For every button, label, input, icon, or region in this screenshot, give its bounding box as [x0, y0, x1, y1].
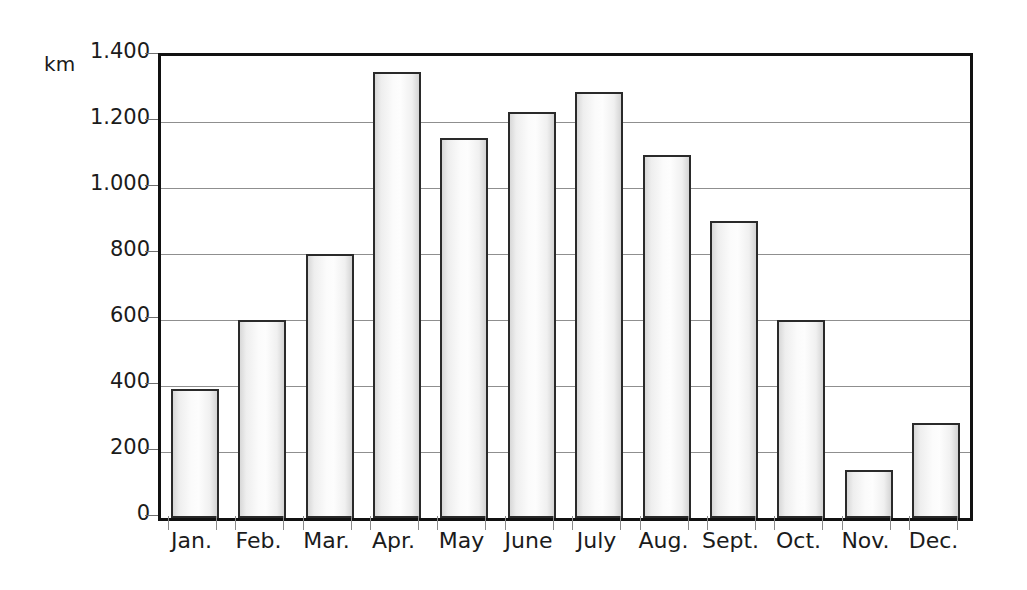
x-axis-label: Sept. — [697, 528, 764, 553]
gridline — [161, 122, 970, 123]
y-axis-tick-label: 0 — [0, 501, 164, 525]
bar[interactable] — [575, 92, 623, 518]
y-axis-tick-mark — [145, 383, 158, 384]
y-axis-tick-label: 600 — [0, 303, 164, 327]
x-axis-label: Jan. — [158, 528, 225, 553]
bar[interactable] — [845, 470, 893, 518]
x-axis-label: Mar. — [293, 528, 360, 553]
bar[interactable] — [306, 254, 354, 518]
y-axis-tick-label: 1.000 — [0, 171, 164, 195]
bar[interactable] — [373, 72, 421, 518]
y-axis-tick-mark — [145, 515, 158, 516]
x-axis-label: Aug. — [630, 528, 697, 553]
x-axis-label: May — [428, 528, 495, 553]
bar[interactable] — [238, 320, 286, 518]
y-axis-tick-label: 800 — [0, 237, 164, 261]
bar[interactable] — [710, 221, 758, 518]
y-axis-tick-mark — [145, 185, 158, 186]
x-axis-label: Apr. — [360, 528, 427, 553]
x-axis-label: Feb. — [225, 528, 292, 553]
y-axis-tick-mark — [145, 317, 158, 318]
y-axis-tick-mark — [145, 119, 158, 120]
plot-area — [158, 53, 973, 521]
gridline — [161, 188, 970, 189]
y-axis-tick-mark — [145, 251, 158, 252]
bar[interactable] — [912, 423, 960, 518]
y-axis-tick-label: 1.200 — [0, 105, 164, 129]
plot-inner — [161, 56, 970, 518]
bar[interactable] — [440, 138, 488, 518]
gridline — [161, 254, 970, 255]
y-axis-tick-label: 1.400 — [0, 39, 164, 63]
bar[interactable] — [508, 112, 556, 518]
bar[interactable] — [643, 155, 691, 518]
y-axis-tick-mark — [145, 449, 158, 450]
y-axis-tick-label: 200 — [0, 435, 164, 459]
x-axis-label: Nov. — [832, 528, 899, 553]
bar[interactable] — [171, 389, 219, 518]
x-axis-label: Oct. — [765, 528, 832, 553]
x-axis-label: July — [563, 528, 630, 553]
y-axis-tick-mark — [145, 53, 158, 54]
bar-chart: km 02004006008001.0001.2001.400 Jan.Feb.… — [0, 0, 1027, 590]
bar[interactable] — [777, 320, 825, 518]
y-axis-tick-label: 400 — [0, 369, 164, 393]
x-axis-label: Dec. — [900, 528, 967, 553]
x-axis-label: June — [495, 528, 562, 553]
